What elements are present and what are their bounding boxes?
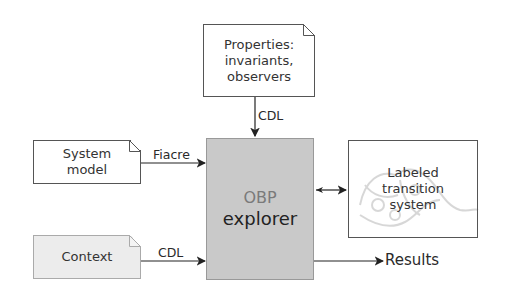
- properties-line-1: Properties:: [224, 37, 294, 53]
- page-fold-icon: [129, 140, 141, 152]
- page-fold-icon: [129, 235, 141, 247]
- properties-line-2: invariants,: [224, 53, 294, 69]
- explorer-subtitle: explorer: [223, 208, 297, 230]
- system-model-box: System model: [33, 140, 141, 184]
- properties-line-3: observers: [224, 69, 294, 85]
- lts-box: Labeled transition system: [348, 140, 478, 238]
- edge-label-fiacre: Fiacre: [153, 147, 190, 162]
- properties-box: Properties: invariants, observers: [203, 24, 315, 97]
- lts-line-1: Labeled: [382, 165, 444, 181]
- context-label: Context: [62, 249, 113, 265]
- context-box: Context: [33, 235, 141, 279]
- edge-label-cdl-context: CDL: [158, 245, 183, 260]
- page-fold-icon: [303, 24, 315, 36]
- lts-line-3: system: [382, 197, 444, 213]
- lts-line-2: transition: [382, 181, 444, 197]
- obp-explorer-box: OBP explorer: [206, 138, 314, 280]
- results-label: Results: [385, 251, 439, 269]
- explorer-title: OBP: [223, 188, 297, 208]
- system-model-line-2: model: [63, 162, 111, 178]
- edge-label-cdl-properties: CDL: [258, 108, 283, 123]
- system-model-line-1: System: [63, 146, 111, 162]
